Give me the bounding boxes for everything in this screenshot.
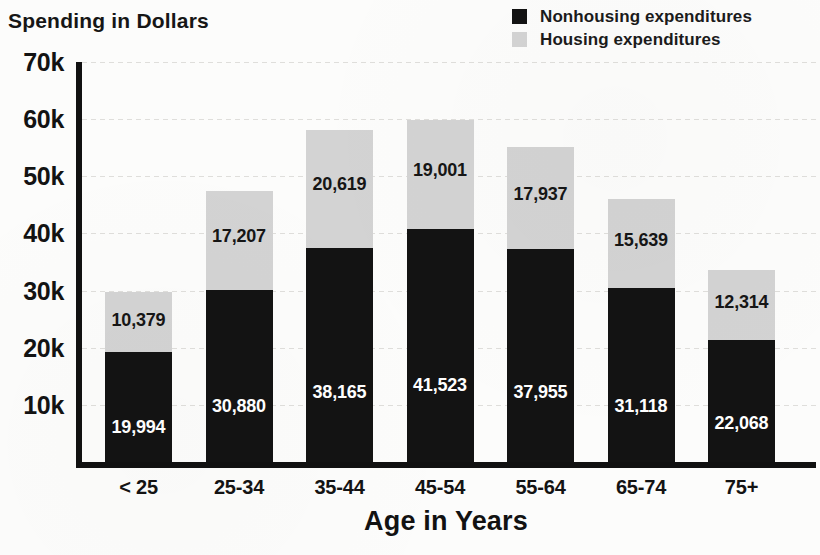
- stacked-bar[interactable]: 12,31422,068: [708, 270, 775, 466]
- x-axis-title: Age in Years: [76, 506, 816, 537]
- bar-value-label-nonhousing: 30,880: [206, 396, 273, 417]
- y-axis-tick-label: 10k: [0, 390, 64, 419]
- bar-value-label-nonhousing: 22,068: [708, 413, 775, 434]
- bar-value-label-nonhousing: 41,523: [407, 375, 474, 396]
- x-axis-tick-label: 65-74: [586, 476, 696, 499]
- y-axis-line: [76, 62, 82, 468]
- legend-swatch-housing: [512, 32, 527, 47]
- y-axis-tick-label: 20k: [0, 333, 64, 362]
- bar-segment-housing[interactable]: 12,314: [708, 270, 775, 340]
- bar-value-label-nonhousing: 38,165: [306, 381, 373, 402]
- y-axis-tick-label: 70k: [0, 48, 64, 77]
- bar-segment-housing[interactable]: 17,207: [206, 191, 273, 289]
- stacked-bar[interactable]: 17,93737,955: [507, 147, 574, 466]
- bar-value-label-housing: 15,639: [608, 229, 675, 250]
- legend-label-nonhousing: Nonhousing expenditures: [540, 7, 752, 27]
- y-axis-tick-label: 30k: [0, 276, 64, 305]
- legend-label-housing: Housing expenditures: [540, 30, 721, 50]
- stacked-bar[interactable]: 10,37919,994: [105, 292, 172, 466]
- legend-item-nonhousing[interactable]: Nonhousing expenditures: [512, 6, 812, 27]
- gridline: [82, 62, 816, 63]
- stacked-bar[interactable]: 19,00141,523: [407, 120, 474, 466]
- bar-value-label-nonhousing: 31,118: [608, 395, 675, 416]
- bar-segment-nonhousing[interactable]: 31,118: [608, 288, 675, 466]
- y-axis-tick-label: 60k: [0, 105, 64, 134]
- x-axis-line: [76, 462, 816, 468]
- bar-value-label-housing: 17,937: [507, 183, 574, 204]
- bar-value-label-housing: 17,207: [206, 226, 273, 247]
- legend-swatch-nonhousing: [512, 9, 527, 24]
- stacked-bar[interactable]: 15,63931,118: [608, 199, 675, 466]
- chart-page: Spending in Dollars Nonhousing expenditu…: [0, 0, 820, 555]
- x-axis-tick-label: 75+: [687, 476, 797, 499]
- bar-segment-nonhousing[interactable]: 38,165: [306, 248, 373, 466]
- bar-segment-housing[interactable]: 20,619: [306, 130, 373, 248]
- bar-value-label-housing: 19,001: [407, 160, 474, 181]
- y-axis-tick-label: 50k: [0, 162, 64, 191]
- bar-value-label-housing: 20,619: [306, 174, 373, 195]
- chart-legend: Nonhousing expenditures Housing expendit…: [512, 6, 812, 52]
- bar-value-label-nonhousing: 19,994: [105, 417, 172, 438]
- y-axis-tick-label: 40k: [0, 219, 64, 248]
- bar-segment-housing[interactable]: 19,001: [407, 120, 474, 229]
- y-axis-title: Spending in Dollars: [8, 9, 209, 33]
- stacked-bar[interactable]: 17,20730,880: [206, 191, 273, 466]
- bar-segment-housing[interactable]: 10,379: [105, 292, 172, 351]
- bar-value-label-nonhousing: 37,955: [507, 382, 574, 403]
- legend-item-housing[interactable]: Housing expenditures: [512, 29, 812, 50]
- bar-segment-housing[interactable]: 17,937: [507, 147, 574, 249]
- bar-value-label-housing: 10,379: [105, 309, 172, 330]
- bar-segment-nonhousing[interactable]: 41,523: [407, 229, 474, 466]
- x-axis-tick-label: < 25: [84, 476, 194, 499]
- x-axis-tick-label: 25-34: [184, 476, 294, 499]
- bar-segment-nonhousing[interactable]: 19,994: [105, 352, 172, 466]
- bar-segment-housing[interactable]: 15,639: [608, 199, 675, 288]
- bar-segment-nonhousing[interactable]: 22,068: [708, 340, 775, 466]
- plot-area: 70k60k50k40k30k20k10k 10,37919,99417,207…: [76, 62, 816, 472]
- x-axis-tick-label: 35-44: [285, 476, 395, 499]
- x-axis-tick-label: 45-54: [385, 476, 495, 499]
- bar-segment-nonhousing[interactable]: 37,955: [507, 249, 574, 466]
- bar-value-label-housing: 12,314: [708, 291, 775, 312]
- bar-segment-nonhousing[interactable]: 30,880: [206, 290, 273, 466]
- x-axis-tick-label: 55-64: [486, 476, 596, 499]
- stacked-bar[interactable]: 20,61938,165: [306, 130, 373, 466]
